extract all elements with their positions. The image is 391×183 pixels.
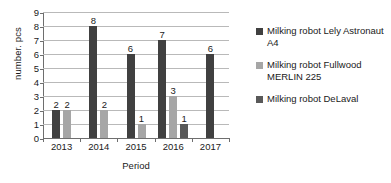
legend-swatch-icon (256, 96, 263, 103)
bar-slot: 6 (206, 12, 214, 138)
y-axis-title: number. pcs (12, 9, 23, 99)
bar-slot: 2 (63, 12, 71, 138)
legend-item-label: Milking robot DeLaval (267, 93, 358, 105)
legend-item-label: Milking robot Lely Astronaut A4 (267, 25, 388, 48)
y-axis-tick-label: 2 (34, 106, 39, 116)
bar[interactable]: 8 (89, 26, 97, 138)
x-axis-tick-label: 2017 (192, 141, 229, 152)
bar-value-label: 1 (139, 114, 144, 124)
bar-value-label: 2 (102, 100, 107, 110)
bar-slot: 3 (169, 12, 177, 138)
bar-slot: 2 (100, 12, 108, 138)
bar-slot: 6 (127, 12, 135, 138)
bar-value-label: 3 (171, 86, 176, 96)
y-axis-tick-label: 8 (34, 22, 39, 32)
legend-swatch-icon (256, 28, 263, 35)
bar[interactable]: 7 (158, 40, 166, 138)
bar-value-label: 7 (160, 30, 165, 40)
bar-value-label: 6 (128, 44, 133, 54)
bar-group: 6 (192, 12, 229, 138)
x-axis-tick-label: 2013 (43, 141, 80, 152)
bar[interactable]: 3 (169, 96, 177, 138)
bar-slot: 7 (158, 12, 166, 138)
chart-legend: Milking robot Lely Astronaut A4Milking r… (256, 25, 388, 116)
bar[interactable]: 1 (180, 124, 188, 138)
bar-value-label: 1 (182, 114, 187, 124)
x-axis-tick-label: 2016 (155, 141, 192, 152)
y-axis-tick-label: 0 (34, 134, 39, 144)
bar[interactable]: 1 (138, 124, 146, 138)
bar-group: 731 (155, 12, 192, 138)
bar[interactable]: 2 (100, 110, 108, 138)
bar[interactable]: 6 (206, 54, 214, 138)
bar-chart-figure: number. pcs 9876543210 2282617316 201320… (0, 0, 391, 183)
bar-group: 61 (117, 12, 154, 138)
y-axis-tick-label: 7 (34, 36, 39, 46)
x-axis-title: Period (43, 160, 229, 171)
x-axis-tick-label: 2015 (117, 141, 154, 152)
bars-layer: 2282617316 (43, 12, 229, 138)
bar[interactable]: 2 (52, 110, 60, 138)
bar-value-label: 2 (53, 100, 58, 110)
bar-group: 22 (43, 12, 80, 138)
legend-item[interactable]: Milking robot DeLaval (256, 93, 388, 105)
y-axis-tick-label: 1 (34, 120, 39, 130)
bar-slot: 8 (89, 12, 97, 138)
bar-slot: 2 (52, 12, 60, 138)
bar-value-label: 2 (64, 100, 69, 110)
plot-area: 9876543210 2282617316 (43, 12, 229, 138)
y-axis-tick-label: 3 (34, 92, 39, 102)
x-axis-labels: 20132014201520162017 (43, 141, 229, 152)
legend-swatch-icon (256, 62, 263, 69)
y-axis-tick-label: 6 (34, 50, 39, 60)
bar-slot: 1 (138, 12, 146, 138)
y-axis-tick-label: 9 (34, 8, 39, 18)
x-axis-tick-label: 2014 (80, 141, 117, 152)
bar-slot: 1 (180, 12, 188, 138)
bar-value-label: 8 (91, 16, 96, 26)
y-axis-tick-label: 4 (34, 78, 39, 88)
legend-item-label: Milking robot Fullwood MERLIN 225 (267, 59, 388, 82)
legend-item[interactable]: Milking robot Fullwood MERLIN 225 (256, 59, 388, 82)
bar[interactable]: 6 (127, 54, 135, 138)
y-axis-tick-label: 5 (34, 64, 39, 74)
bar-group: 82 (80, 12, 117, 138)
bar-value-label: 6 (208, 44, 213, 54)
x-axis-tick-mark (229, 138, 230, 142)
bar[interactable]: 2 (63, 110, 71, 138)
legend-item[interactable]: Milking robot Lely Astronaut A4 (256, 25, 388, 48)
